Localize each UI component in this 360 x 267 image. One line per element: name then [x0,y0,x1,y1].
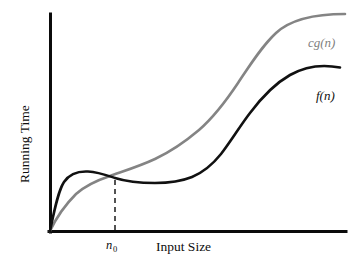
plot-canvas: cg(n) f(n) Input Size Running Time n 0 [0,0,360,267]
curve-f-n [50,66,340,231]
curve-cg-n [50,14,345,231]
asymptotic-growth-figure: cg(n) f(n) Input Size Running Time n 0 [0,0,360,267]
x-tick-label-n0: n [106,238,112,252]
x-tick-label-n0-subscript: 0 [113,244,117,254]
x-axis-title: Input Size [156,239,211,254]
y-axis-title: Running Time [17,105,32,183]
curve-label-cg-n: cg(n) [308,35,335,50]
curve-label-f-n: f(n) [316,88,335,103]
